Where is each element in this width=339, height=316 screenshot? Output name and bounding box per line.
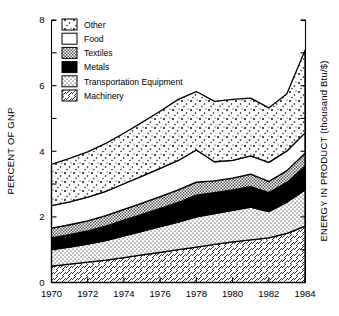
x-tick-label: 1978	[186, 288, 207, 299]
x-tick-label: 1982	[258, 288, 279, 299]
x-tick-label: 1980	[222, 288, 243, 299]
stacked-area-chart: 02468 19701972197419761978198019821984 P…	[0, 0, 339, 316]
legend-label: Transportation Equipment	[84, 77, 183, 87]
legend-label: Other	[84, 20, 106, 30]
y-tick-label: 2	[39, 211, 44, 222]
legend-swatch-metals	[62, 62, 77, 73]
y-tick-label: 6	[39, 80, 44, 91]
legend-label: Metals	[84, 62, 109, 72]
legend-label: Machinery	[84, 91, 124, 101]
legend-swatch-other	[62, 19, 77, 30]
y-tick-label: 0	[39, 277, 44, 288]
y2-axis-title: ENERGY IN PRODUCT (thousand Btu/$)	[318, 60, 329, 241]
legend-label: Textiles	[84, 48, 113, 58]
y-axis-title: PERCENT OF GNP	[5, 107, 16, 194]
legend-swatch-transportation-equipment	[62, 76, 77, 87]
y-tick-label: 4	[39, 146, 44, 157]
legend-swatch-machinery	[62, 90, 77, 101]
legend-swatch-textiles	[62, 47, 77, 58]
chart-container: 02468 19701972197419761978198019821984 P…	[0, 0, 339, 316]
x-tick-label: 1972	[77, 288, 98, 299]
y-tick-label: 8	[39, 14, 44, 25]
x-tick-label: 1974	[113, 288, 134, 299]
legend-swatch-food	[62, 33, 77, 44]
x-tick-label: 1976	[150, 288, 171, 299]
legend-label: Food	[84, 34, 104, 44]
x-tick-label: 1970	[41, 288, 62, 299]
x-tick-label: 1984	[294, 288, 315, 299]
